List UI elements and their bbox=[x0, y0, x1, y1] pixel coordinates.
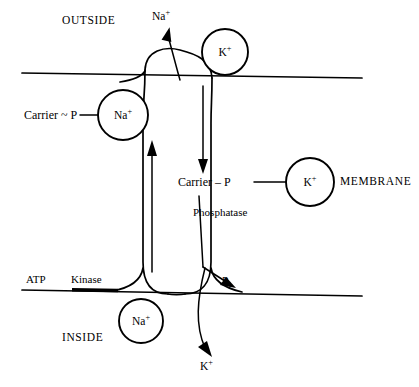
channel-top-left-flare bbox=[120, 71, 145, 82]
potassium-influx-label: K+ bbox=[200, 361, 213, 373]
carrier-energized-label: Carrier ~ P bbox=[24, 109, 77, 121]
potassium-influx-arrow bbox=[198, 268, 212, 357]
sodium-carrier-circle-label: Na+ bbox=[114, 109, 132, 121]
channel-bottom-left-flare bbox=[112, 268, 143, 291]
carrier-dephospho-label: Carrier – P bbox=[178, 176, 231, 188]
sodium-carrier-charge: + bbox=[127, 107, 132, 116]
potassium-membrane-circle-label: K+ bbox=[304, 176, 317, 188]
membrane-label: MEMBRANE bbox=[340, 176, 411, 188]
potassium-outside-circle-label: K+ bbox=[219, 46, 232, 58]
sodium-inside-charge: + bbox=[145, 313, 150, 322]
potassium-membrane-charge: + bbox=[312, 174, 317, 183]
sodium-carrier-symbol: Na bbox=[114, 109, 127, 121]
sodium-efflux-charge: + bbox=[165, 8, 170, 17]
inorganic-phosphate-label: Pi bbox=[222, 276, 231, 288]
sodium-efflux-symbol: Na bbox=[152, 10, 165, 22]
sodium-inside-circle-label: Na+ bbox=[132, 315, 150, 327]
outside-compartment-label: OUTSIDE bbox=[62, 15, 115, 27]
carrier-p-transition-arrow bbox=[198, 86, 208, 174]
diagram-canvas bbox=[0, 0, 419, 387]
membrane-transport-diagram: OUTSIDE INSIDE MEMBRANE Carrier ~ P Carr… bbox=[0, 0, 419, 387]
carrier-channel-outline bbox=[143, 49, 212, 295]
sodium-efflux-label: Na+ bbox=[152, 11, 170, 23]
phosphatase-label: Phosphatase bbox=[193, 207, 247, 218]
sodium-inside-symbol: Na bbox=[132, 315, 145, 327]
potassium-outside-charge: + bbox=[227, 44, 232, 53]
carrier-recycle-up-arrow bbox=[147, 140, 157, 272]
membrane-outer-boundary-line bbox=[22, 73, 362, 78]
inside-compartment-label: INSIDE bbox=[62, 332, 103, 344]
sodium-efflux-arrow bbox=[162, 26, 180, 80]
kinase-reaction-segment bbox=[72, 290, 118, 291]
kinase-label: Kinase bbox=[71, 274, 102, 285]
potassium-influx-charge: + bbox=[208, 358, 213, 367]
phosphate-subscript: i bbox=[228, 281, 230, 290]
atp-label: ATP bbox=[26, 274, 46, 285]
